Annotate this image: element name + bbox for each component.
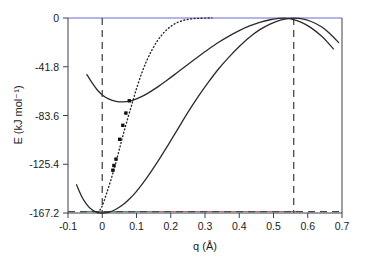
potential-energy-plot: 0 -41.8 -83.6 -125.4 -167.2 -0.1 0 0.1 0… xyxy=(0,0,365,261)
x-tick-label-2: 0.1 xyxy=(129,220,144,232)
lower-well-curve xyxy=(77,18,339,213)
x-tick-label-1: 0 xyxy=(99,220,105,232)
data-point-marker xyxy=(124,111,127,114)
y-tick-label-0: 0 xyxy=(53,12,59,24)
data-point-marker xyxy=(112,164,115,167)
data-point-marker xyxy=(128,99,131,102)
x-tick-label-6: 0.5 xyxy=(266,220,281,232)
x-tick-label-3: 0.2 xyxy=(163,220,178,232)
y-axis-ticks xyxy=(63,18,68,213)
x-tick-label-8: 0.7 xyxy=(335,220,350,232)
x-tick-label-7: 0.6 xyxy=(300,220,315,232)
y-axis-title: E (kJ mol⁻¹) xyxy=(12,85,24,144)
x-axis-ticks xyxy=(68,213,342,218)
y-tick-label-1: -41.8 xyxy=(35,61,59,73)
y-axis-tick-labels: 0 -41.8 -83.6 -125.4 -167.2 xyxy=(29,12,59,219)
dotted-transition-curve xyxy=(98,18,212,213)
x-tick-label-0: -0.1 xyxy=(59,220,77,232)
x-axis-title: q (Å) xyxy=(193,240,217,252)
x-tick-label-5: 0.4 xyxy=(232,220,247,232)
y-tick-label-3: -125.4 xyxy=(29,158,59,170)
curve-layer xyxy=(77,18,339,213)
y-tick-label-2: -83.6 xyxy=(35,110,59,122)
x-tick-label-4: 0.3 xyxy=(198,220,213,232)
data-point-marker xyxy=(114,157,117,160)
data-point-marker xyxy=(121,124,124,127)
upper-well-curve xyxy=(87,18,334,102)
data-point-marker xyxy=(118,138,121,141)
x-axis-tick-labels: -0.1 0 0.1 0.2 0.3 0.4 0.5 0.6 0.7 xyxy=(59,220,349,232)
computed-data-points xyxy=(111,99,131,172)
y-tick-label-4: -167.2 xyxy=(29,207,59,219)
chart-figure: 0 -41.8 -83.6 -125.4 -167.2 -0.1 0 0.1 0… xyxy=(0,0,365,261)
data-point-marker xyxy=(111,169,114,172)
